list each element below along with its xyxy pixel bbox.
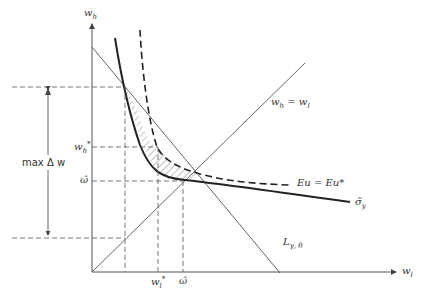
diagram-canvas <box>0 0 428 298</box>
max-delta-w-label: max Δ w <box>22 157 65 169</box>
omega-hat-x-label: ω̂ <box>179 276 187 286</box>
y-axis-label: wh <box>84 8 97 21</box>
sigma-curve-label: σ̃y <box>355 197 366 210</box>
budget-line-label: Lγ, θ <box>283 237 303 250</box>
budget-line <box>92 47 280 273</box>
w-h-star-label: wh* <box>74 141 91 155</box>
w-l-star-label: wl* <box>151 276 165 290</box>
x-axis-label: wl <box>402 266 413 279</box>
indifference-curve-label: Eu = Eu* <box>297 178 344 188</box>
omega-hat-y-label: ω̂ <box>80 175 88 185</box>
diagonal-line-label: wh = wl <box>271 97 310 110</box>
diagonal-line <box>92 63 305 272</box>
